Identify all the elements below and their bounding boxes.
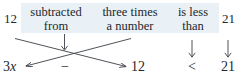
expression-less-than-sign-text: <: [188, 59, 196, 74]
expression-three-x: 3x: [3, 59, 16, 74]
translation-diagram: 12 subtracted from three times a number …: [0, 0, 248, 78]
expression-three-x-coefficient: 3: [3, 59, 10, 74]
arrow-twelve-to-twelve: [15, 39, 126, 67]
expression-twelve: 12: [131, 59, 145, 74]
expression-twenty-one: 21: [221, 59, 235, 74]
expression-less-than-sign: <: [188, 59, 196, 74]
arrow-three-times-a-number-to-3x: [26, 39, 131, 67]
expression-minus-sign: −: [61, 59, 69, 74]
expression-twelve-text: 12: [131, 59, 145, 74]
expression-twenty-one-text: 21: [221, 59, 235, 74]
arrow-layer: [0, 0, 248, 78]
expression-three-x-variable: x: [10, 59, 16, 74]
expression-minus-sign-text: −: [61, 59, 69, 74]
